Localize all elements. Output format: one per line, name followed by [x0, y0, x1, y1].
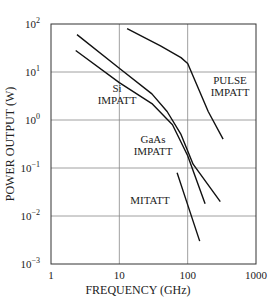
series-labels: SiIMPATTGaAsIMPATTPULSEIMPATTMITATT: [98, 74, 250, 206]
series-label: PULSE: [213, 74, 247, 86]
y-tick-label: 10−2: [20, 208, 40, 222]
y-axis-label: POWER OUTPUT (W): [3, 87, 17, 201]
series-label: GaAs: [140, 133, 165, 145]
series-label: IMPATT: [98, 94, 137, 106]
series-line: [127, 29, 223, 139]
y-tick-label: 10−3: [20, 256, 40, 270]
x-axis-label: FREQUENCY (GHz): [85, 283, 190, 297]
x-tick-label: 10: [114, 269, 126, 281]
y-tick-label: 100: [25, 112, 40, 126]
y-axis-ticks: 10210110010−110−210−3: [20, 16, 40, 270]
series-label: MITATT: [130, 194, 170, 206]
series-label: Si: [112, 82, 121, 94]
series-line: [76, 51, 205, 204]
x-tick-label: 1: [48, 269, 54, 281]
x-tick-label: 100: [179, 269, 196, 281]
series-line: [77, 35, 220, 202]
series-line: [177, 173, 200, 241]
power-frequency-chart: 10210110010−110−210−3 1101001000 SiIMPAT…: [0, 0, 277, 307]
series-label: IMPATT: [134, 145, 173, 157]
y-tick-label: 101: [25, 64, 40, 78]
y-tick-label: 10−1: [20, 160, 40, 174]
y-tick-label: 102: [25, 16, 40, 30]
series-label: IMPATT: [211, 86, 250, 98]
x-axis-ticks: 1101001000: [48, 269, 267, 281]
x-tick-label: 1000: [245, 269, 268, 281]
